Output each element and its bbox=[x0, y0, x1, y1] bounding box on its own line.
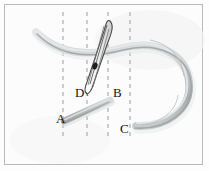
point-label-c: C bbox=[120, 122, 129, 135]
point-label-b: B bbox=[113, 86, 122, 99]
point-label-d: D bbox=[75, 86, 84, 99]
figure-canvas bbox=[0, 0, 209, 171]
figure-root: A B C D bbox=[0, 0, 209, 171]
point-label-a: A bbox=[56, 112, 65, 125]
